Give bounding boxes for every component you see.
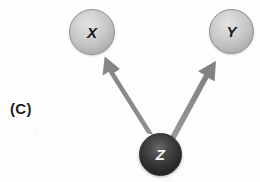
panel-label: (C) — [10, 100, 32, 117]
node-z-label: Z — [156, 147, 165, 162]
node-y-label: Y — [226, 24, 236, 39]
edge-z-to-x — [103, 57, 153, 134]
node-z[interactable]: Z — [139, 133, 182, 176]
figure-panel: X Y Z (C) — [0, 0, 260, 182]
node-y[interactable]: Y — [209, 9, 254, 54]
edge-z-to-y — [171, 62, 216, 140]
node-x-label: X — [87, 25, 97, 40]
node-x[interactable]: X — [69, 9, 115, 55]
